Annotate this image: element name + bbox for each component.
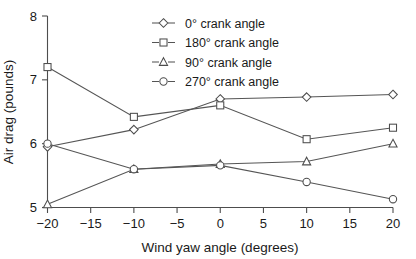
legend-marker-2: [159, 58, 167, 66]
x-tick-label: 10: [299, 216, 313, 231]
legend-marker-3: [160, 78, 167, 85]
data-point-1-1: [130, 113, 137, 120]
data-point-2-0: [43, 200, 51, 208]
triangle-marker-icon: [159, 58, 167, 66]
diamond-marker-icon: [130, 125, 139, 134]
circle-marker-icon: [389, 196, 396, 203]
data-point-2-4: [389, 139, 397, 147]
square-marker-icon: [160, 39, 167, 46]
circle-marker-icon: [303, 178, 310, 185]
data-point-1-4: [389, 124, 396, 131]
x-tick-label: −10: [123, 216, 145, 231]
series-line-3: [48, 144, 394, 200]
data-point-0-3: [302, 93, 311, 102]
series-2: [43, 139, 397, 207]
y-tick-label: 5: [30, 200, 37, 215]
x-axis: −20−15−10−505101520: [36, 208, 400, 232]
legend-label-3: 270° crank angle: [185, 75, 279, 89]
data-point-1-2: [217, 102, 224, 109]
diamond-marker-icon: [159, 19, 168, 28]
data-point-1-0: [44, 64, 51, 71]
legend-marker-1: [160, 39, 167, 46]
circle-marker-icon: [160, 78, 167, 85]
x-axis-title: Wind yaw angle (degrees): [142, 240, 299, 255]
x-tick-label: −15: [80, 216, 102, 231]
data-point-1-3: [303, 136, 310, 143]
legend-item-1: 180° crank angle: [152, 36, 279, 50]
circle-marker-icon: [44, 140, 51, 147]
triangle-marker-icon: [43, 200, 51, 208]
chart-figure: 5678 −20−15−10−505101520 0° crank angle1…: [0, 0, 416, 259]
chart-legend: 0° crank angle180° crank angle90° crank …: [152, 17, 279, 90]
x-tick-label: 5: [260, 216, 267, 231]
x-tick-label: 0: [217, 216, 224, 231]
square-marker-icon: [130, 113, 137, 120]
data-point-0-1: [130, 125, 139, 134]
square-marker-icon: [44, 64, 51, 71]
data-point-3-4: [389, 196, 396, 203]
x-tick-label: 15: [343, 216, 357, 231]
square-marker-icon: [217, 102, 224, 109]
y-axis-title: Air drag (pounds): [1, 60, 16, 164]
data-point-3-0: [44, 140, 51, 147]
data-point-3-1: [130, 166, 137, 173]
legend-item-2: 90° crank angle: [152, 56, 272, 70]
legend-label-0: 0° crank angle: [185, 17, 265, 31]
x-tick-label: −5: [170, 216, 185, 231]
y-axis: 5678: [30, 9, 48, 216]
x-tick-group: −20−15−10−505101520: [36, 208, 400, 232]
legend-item-0: 0° crank angle: [152, 17, 265, 31]
data-point-3-3: [303, 178, 310, 185]
diamond-marker-icon: [302, 93, 311, 102]
circle-marker-icon: [217, 162, 224, 169]
circle-marker-icon: [130, 166, 137, 173]
series-line-2: [48, 144, 394, 205]
series-0: [43, 90, 397, 151]
legend-item-3: 270° crank angle: [152, 75, 279, 89]
diamond-marker-icon: [389, 90, 398, 99]
data-point-3-2: [217, 162, 224, 169]
data-point-0-4: [389, 90, 398, 99]
legend-label-1: 180° crank angle: [185, 36, 279, 50]
x-tick-label: −20: [36, 216, 58, 231]
x-tick-label: 20: [386, 216, 400, 231]
series-3: [44, 140, 397, 203]
legend-marker-0: [159, 19, 168, 28]
legend-label-2: 90° crank angle: [185, 56, 272, 70]
square-marker-icon: [389, 124, 396, 131]
square-marker-icon: [303, 136, 310, 143]
triangle-marker-icon: [389, 139, 397, 147]
y-tick-label: 7: [30, 72, 37, 87]
y-tick-group: 5678: [30, 9, 48, 216]
y-tick-label: 8: [30, 9, 37, 24]
line-chart-plot: 5678 −20−15−10−505101520 0° crank angle1…: [0, 0, 416, 259]
y-tick-label: 6: [30, 136, 37, 151]
